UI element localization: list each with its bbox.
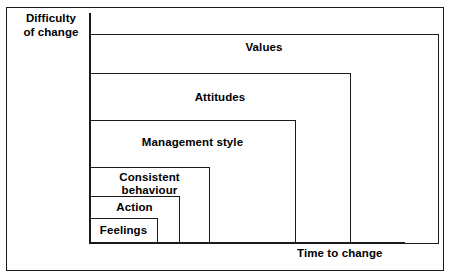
- band-label-management-style: Management style: [92, 136, 293, 149]
- band-label-consistent-behaviour: Consistent behaviour: [92, 171, 207, 197]
- band-label-action: Action: [92, 201, 177, 214]
- band-label-feelings: Feelings: [92, 224, 155, 237]
- band-label-values: Values: [92, 41, 436, 54]
- x-axis-label: Time to change: [297, 247, 409, 261]
- figure-root: ValuesAttitudesManagement styleConsisten…: [0, 0, 452, 280]
- y-axis-label: Difficulty of change: [16, 12, 86, 39]
- band-label-attitudes: Attitudes: [92, 91, 348, 104]
